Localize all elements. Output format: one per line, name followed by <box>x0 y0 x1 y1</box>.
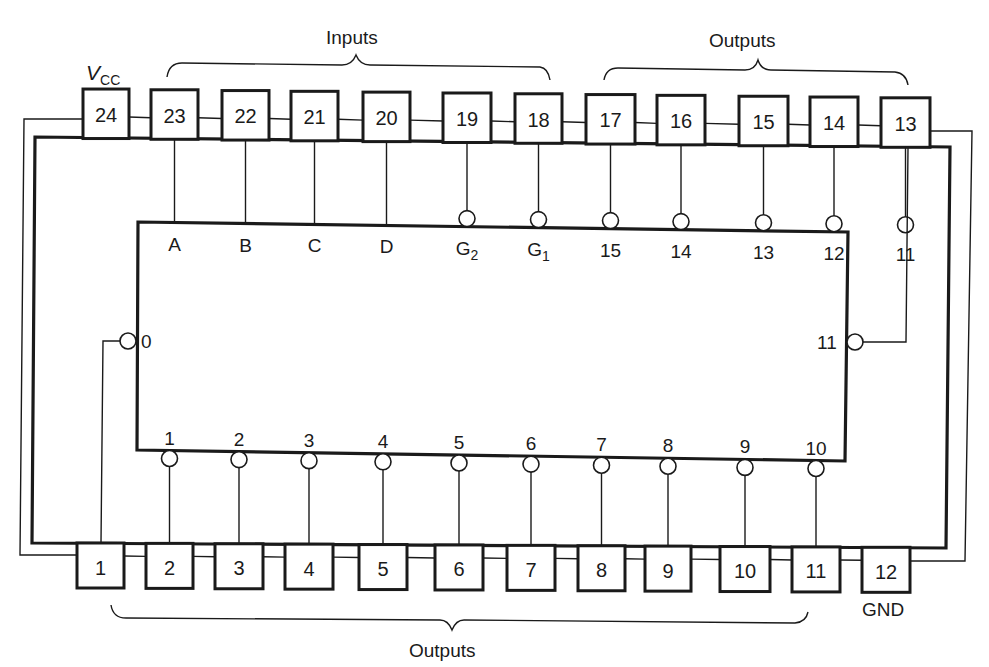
chip-signal-4: 4 <box>378 431 389 452</box>
inversion-bubble-icon <box>808 461 824 477</box>
pin-14: 14 <box>810 97 858 146</box>
chip-signal-5: 5 <box>454 432 465 453</box>
chip-signal-2: 2 <box>234 429 245 450</box>
chip-signal-9: 9 <box>740 436 751 457</box>
pin-17: 17 <box>586 95 635 144</box>
pin-21: 21 <box>291 91 338 140</box>
inversion-bubble-icon <box>531 212 547 228</box>
pin-number: 1 <box>95 557 106 579</box>
inputs-group-label: Inputs <box>326 27 378 48</box>
outputs-bottom-group-label: Outputs <box>409 640 476 661</box>
chip-signal-7: 7 <box>596 434 607 455</box>
inversion-bubble-11 <box>847 334 863 350</box>
inversion-bubble-icon <box>826 216 842 232</box>
pin-number: 16 <box>670 110 692 132</box>
pin-13: 13 <box>881 98 930 147</box>
pin-19: 19 <box>443 93 491 142</box>
pin-4: 4 <box>285 544 333 589</box>
pin-number: 13 <box>894 113 916 135</box>
pin-23: 23 <box>151 90 198 139</box>
chip-signal-D: D <box>380 236 394 257</box>
inversion-bubble-icon <box>756 215 772 231</box>
inversion-bubble-icon <box>737 459 753 475</box>
chip-signal-1: 1 <box>164 428 175 449</box>
chip-signal-8: 8 <box>663 435 674 456</box>
pin-number: 10 <box>734 560 756 582</box>
chip-signal-15: 15 <box>600 240 621 261</box>
chip-signal-13: 13 <box>753 242 774 263</box>
chip-signal-labels: ABCDG2G1151413121112345678910 <box>164 234 915 459</box>
chip-label-left: 0 <box>141 331 152 352</box>
pin-number: 12 <box>875 561 897 583</box>
inversion-bubble-icon <box>459 211 475 227</box>
pin-number: 17 <box>599 109 621 131</box>
pin-20: 20 <box>363 92 410 141</box>
pin-number: 18 <box>527 109 549 131</box>
inversion-bubble-icon <box>231 452 247 468</box>
chip-signal-14: 14 <box>670 241 692 262</box>
pin-15: 15 <box>739 96 788 145</box>
pin-12: 12 <box>862 547 910 592</box>
pin-leads <box>162 139 914 547</box>
pin-number: 23 <box>163 105 185 127</box>
pin-number: 7 <box>525 559 536 581</box>
pin-9: 9 <box>645 546 691 591</box>
pin-1: 1 <box>77 543 124 588</box>
pin-number: 22 <box>234 105 256 127</box>
pin-number: 8 <box>596 559 607 581</box>
inversion-bubble-icon <box>375 454 391 470</box>
outputs-top-brace: Outputs <box>604 30 908 85</box>
pin-number: 5 <box>377 558 388 580</box>
chip-signal-C: C <box>308 235 322 256</box>
pin-2: 2 <box>146 543 193 588</box>
vcc-label: VCC <box>86 61 120 88</box>
outputs-top-group-label: Outputs <box>709 30 776 51</box>
chip-signal-3: 3 <box>304 430 315 451</box>
pin-6: 6 <box>435 545 483 590</box>
pin-5: 5 <box>359 545 407 590</box>
pin-16: 16 <box>657 95 705 144</box>
pin-10: 10 <box>720 547 770 592</box>
decoder-chip-body <box>137 222 848 461</box>
inversion-bubble-icon <box>451 455 467 471</box>
output-0-connection: 0 <box>101 331 152 543</box>
pin-number: 6 <box>453 558 464 580</box>
pin-number: 20 <box>375 107 397 129</box>
decoder-pin-diagram: 242322212019181716151413 123456789101112… <box>0 0 989 667</box>
chip-signal-11: 11 <box>896 244 916 265</box>
chip-signal-A: A <box>168 234 181 255</box>
pin-18: 18 <box>515 94 562 143</box>
pin-24: 24 <box>83 89 129 138</box>
chip-signal-10: 10 <box>805 438 826 459</box>
pin-number: 21 <box>303 106 325 128</box>
pin-number: 15 <box>752 111 774 133</box>
inversion-bubble-icon <box>898 217 914 233</box>
pin-number: 9 <box>662 560 673 582</box>
inversion-bubble-icon <box>523 456 539 472</box>
inversion-bubble-0 <box>120 333 136 349</box>
inversion-bubble-icon <box>594 457 610 473</box>
pin-22: 22 <box>222 91 269 140</box>
inversion-bubble-icon <box>162 451 178 467</box>
inversion-bubble-icon <box>603 213 619 229</box>
pin-number: 11 <box>806 560 827 582</box>
inversion-bubble-icon <box>673 214 689 230</box>
pin-number: 14 <box>823 112 845 134</box>
inputs-brace: Inputs <box>167 27 550 80</box>
chip-signal-G2: G2 <box>456 238 479 263</box>
pin-number: 3 <box>233 557 244 579</box>
pin-3: 3 <box>215 544 263 589</box>
inversion-bubble-icon <box>301 453 317 469</box>
gnd-label: GND <box>862 599 904 620</box>
bottom-pin-row: 123456789101112 <box>77 543 910 592</box>
chip-signal-B: B <box>239 235 252 256</box>
pin-number: 4 <box>303 558 314 580</box>
pin-number: 2 <box>164 557 175 579</box>
pin-11: 11 <box>792 547 840 592</box>
inversion-bubble-icon <box>660 458 676 474</box>
chip-signal-6: 6 <box>526 433 537 454</box>
pin-number: 24 <box>95 104 117 126</box>
pin-number: 19 <box>456 108 478 130</box>
pin-7: 7 <box>507 545 555 590</box>
vcc-subscript: CC <box>100 72 120 88</box>
